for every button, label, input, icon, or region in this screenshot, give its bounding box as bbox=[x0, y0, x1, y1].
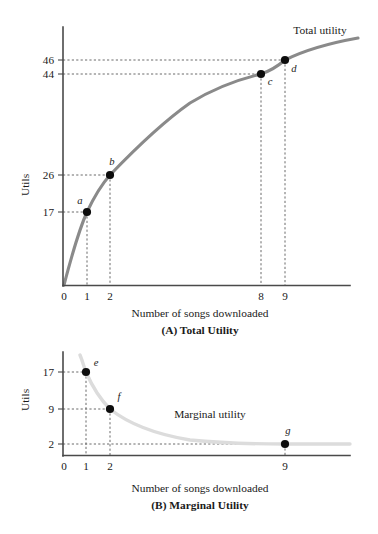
panel-a-y-axis-title: Utils bbox=[19, 173, 31, 196]
panel-a-ytick-label-17: 17 bbox=[43, 206, 55, 218]
panel-b-xtick-label-2: 2 bbox=[107, 460, 113, 472]
panel-b-xtick-label-1: 1 bbox=[83, 460, 89, 472]
datapoint-a bbox=[83, 208, 91, 216]
panel-b-xtick-label-0: 0 bbox=[61, 460, 67, 472]
panel-b-caption: (B) Marginal Utility bbox=[151, 499, 249, 512]
panel-a-xtick-label-2: 2 bbox=[107, 290, 113, 302]
point-label-b: b bbox=[109, 156, 114, 167]
panel-b-ytick-label-17: 17 bbox=[43, 366, 55, 378]
datapoint-d bbox=[281, 56, 289, 64]
total-utility-curve bbox=[64, 38, 358, 285]
panel-a-xtick-label-8: 8 bbox=[258, 290, 264, 302]
marginal-utility-curve bbox=[80, 355, 350, 444]
panel-b-xtick-label-9: 9 bbox=[282, 460, 288, 472]
panel-a-ytick-label-44: 44 bbox=[43, 68, 55, 80]
total-utility-curve-label: Total utility bbox=[293, 24, 347, 36]
panel-a-xtick-label-0: 0 bbox=[61, 290, 67, 302]
panel-b-ytick-label-9: 9 bbox=[48, 403, 54, 415]
point-label-a: a bbox=[77, 195, 82, 206]
datapoint-g bbox=[281, 440, 289, 448]
panel-a-xtick-label-9: 9 bbox=[282, 290, 288, 302]
panel-a-x-axis-title: Number of songs downloaded bbox=[132, 307, 269, 319]
figure-canvas: 46 44 26 17 0 1 2 8 9 a b c d Total util… bbox=[0, 0, 378, 534]
marginal-utility-curve-label: Marginal utility bbox=[174, 408, 246, 420]
datapoint-e bbox=[82, 368, 90, 376]
panel-a-ytick-label-26: 26 bbox=[43, 169, 55, 181]
panel-b-y-axis-title: Utils bbox=[19, 388, 31, 411]
panel-a-total-utility: 46 44 26 17 0 1 2 8 9 a b c d Total util… bbox=[19, 24, 358, 337]
panel-b-ytick-label-2: 2 bbox=[48, 438, 54, 450]
panel-a-ytick-label-46: 46 bbox=[43, 54, 55, 66]
point-label-d: d bbox=[291, 63, 297, 74]
point-label-c: c bbox=[268, 76, 273, 87]
utility-figure: 46 44 26 17 0 1 2 8 9 a b c d Total util… bbox=[0, 0, 378, 534]
point-label-f: f bbox=[118, 391, 123, 402]
datapoint-b bbox=[106, 171, 114, 179]
datapoint-f bbox=[106, 405, 114, 413]
datapoint-c bbox=[257, 70, 265, 78]
point-label-g: g bbox=[285, 425, 290, 436]
panel-a-caption: (A) Total Utility bbox=[161, 324, 239, 337]
point-label-e: e bbox=[94, 357, 99, 368]
panel-a-xtick-label-1: 1 bbox=[84, 290, 90, 302]
panel-b-x-axis-title: Number of songs downloaded bbox=[132, 482, 269, 494]
panel-b-marginal-utility: 17 9 2 0 1 2 9 e f g Marginal utility Ut… bbox=[19, 352, 350, 512]
